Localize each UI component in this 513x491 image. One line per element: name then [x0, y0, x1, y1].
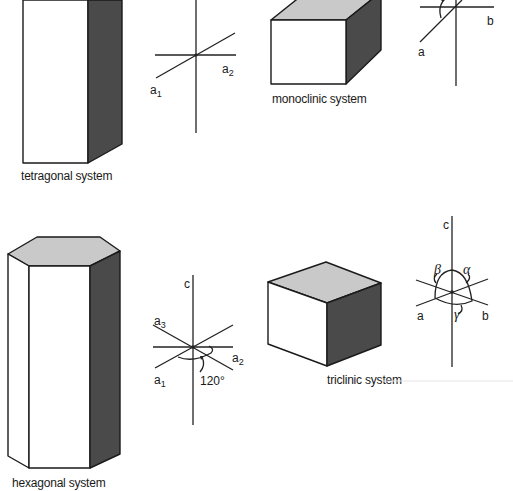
axis-label-a2: a2 — [222, 62, 234, 78]
axis-label-a: a — [417, 309, 424, 323]
axis-label-c: c — [443, 218, 449, 232]
dark-side-face — [88, 0, 122, 163]
angle-label-120: 120° — [200, 374, 225, 388]
hexagonal-caption: hexagonal system — [12, 476, 106, 490]
front-face — [23, 0, 88, 163]
axis-label-a2: a2 — [232, 351, 244, 367]
monoclinic-caption: monoclinic system — [272, 92, 367, 106]
monoclinic-axes — [420, 0, 494, 86]
triclinic-prism — [268, 262, 381, 366]
angle-label-gamma: γ — [454, 307, 460, 322]
axis-label-a1: a1 — [150, 83, 162, 99]
axis-label-a3: a3 — [154, 314, 166, 330]
hexagonal-prism — [8, 237, 120, 468]
axis-label-c: c — [184, 277, 190, 291]
triclinic-axes — [416, 216, 488, 367]
tetragonal-caption: tetragonal system — [21, 169, 113, 183]
axis-label-a: a — [418, 45, 425, 59]
left-face — [8, 254, 29, 468]
axis-label-b: b — [482, 309, 489, 323]
triclinic-caption: triclinic system — [327, 373, 402, 387]
front-face — [271, 20, 346, 84]
angle-label-beta: β — [433, 262, 441, 277]
monoclinic-prism — [271, 0, 381, 84]
axis-label-a1: a1 — [154, 373, 166, 389]
dark-side-face — [90, 251, 120, 468]
front-face — [29, 266, 90, 468]
axis-label-b: b — [487, 14, 494, 28]
angle-label-alpha: α — [463, 262, 471, 277]
crystal-systems-diagram: tetragonal system a1 a2 monoclinic syste… — [0, 0, 513, 491]
hexagonal-axes — [153, 275, 233, 425]
tetragonal-prism — [23, 0, 122, 163]
